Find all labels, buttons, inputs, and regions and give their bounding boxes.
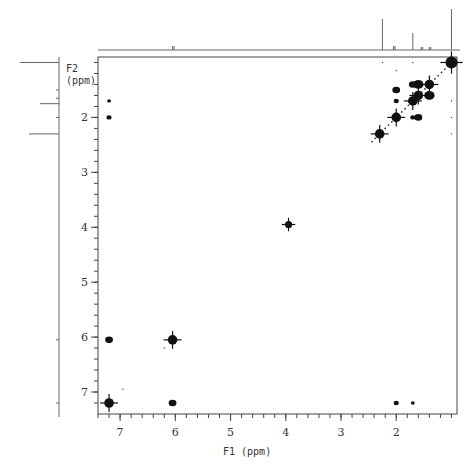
y-tick-label: 4: [81, 221, 88, 234]
contour-peaks: [100, 51, 463, 412]
x-axis-label: F1 (ppm): [223, 446, 271, 457]
y-axis-label-ppm: (ppm): [66, 75, 96, 86]
x-tick-label: 4: [282, 426, 289, 439]
x-axis: 765432: [98, 414, 451, 439]
x-tick-label: 7: [117, 426, 124, 439]
y-axis: 234567: [81, 62, 98, 403]
y-tick-label: 3: [81, 166, 88, 179]
plot-frame: [98, 57, 457, 414]
y-tick-label: 7: [81, 386, 88, 399]
cosy-spectrum-chart: 765432 234567 F1 (ppm) F2 (ppm): [0, 0, 475, 469]
x-tick-label: 2: [393, 426, 400, 439]
f2-projection-spectrum: [20, 57, 59, 417]
x-tick-label: 6: [172, 426, 179, 439]
x-tick-label: 3: [338, 426, 345, 439]
y-tick-label: 5: [81, 276, 88, 289]
y-axis-label-f2: F2: [66, 63, 78, 74]
y-tick-label: 6: [81, 331, 88, 344]
f1-projection-spectrum: [98, 9, 460, 50]
x-tick-label: 5: [227, 426, 234, 439]
y-tick-label: 2: [81, 111, 88, 124]
